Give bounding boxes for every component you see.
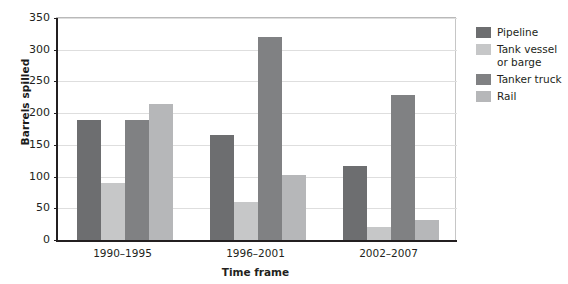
y-tick-mark: [54, 208, 58, 209]
x-tick-label: 1996–2001: [189, 247, 322, 259]
bar: [125, 120, 149, 241]
y-tick-label: 200: [4, 107, 50, 118]
y-tick-label: 300: [4, 44, 50, 55]
x-tick-label: 1990–1995: [56, 247, 189, 259]
chart-legend: PipelineTank vessel or bargeTanker truck…: [476, 26, 566, 107]
x-tick-label: 2002–2007: [322, 247, 455, 259]
y-tick-label: 250: [4, 75, 50, 86]
y-tick-label: 0: [4, 234, 50, 245]
bar: [77, 120, 101, 241]
y-tick-label: 350: [4, 12, 50, 23]
y-tick-label: 100: [4, 171, 50, 182]
y-tick-mark: [54, 113, 58, 114]
legend-item: Pipeline: [476, 26, 566, 39]
legend-label: Tank vessel or barge: [497, 43, 557, 69]
legend-swatch-icon: [476, 74, 491, 85]
plot-area: [56, 18, 457, 242]
legend-label: Pipeline: [497, 26, 538, 39]
y-tick-mark: [54, 177, 58, 178]
x-axis-title: Time frame: [56, 266, 455, 278]
legend-swatch-icon: [476, 27, 491, 38]
legend-item: Tank vessel or barge: [476, 43, 566, 69]
y-tick-mark: [54, 240, 58, 241]
bar: [101, 183, 125, 240]
legend-item: Tanker truck: [476, 73, 566, 86]
bar: [415, 220, 439, 240]
legend-swatch-icon: [476, 91, 491, 102]
y-tick-label: 150: [4, 139, 50, 150]
bar-chart: Barrels spilled 050100150200250300350 19…: [0, 0, 568, 284]
legend-label: Tanker truck: [497, 73, 562, 86]
bar: [210, 135, 234, 240]
y-tick-mark: [54, 81, 58, 82]
gridline: [58, 18, 457, 19]
bar: [343, 166, 367, 240]
bar: [258, 37, 282, 240]
bar: [367, 227, 391, 240]
legend-item: Rail: [476, 90, 566, 103]
bar: [149, 104, 173, 240]
bar: [234, 202, 258, 240]
bar: [391, 95, 415, 240]
legend-swatch-icon: [476, 44, 491, 55]
y-tick-label: 50: [4, 202, 50, 213]
y-tick-mark: [54, 50, 58, 51]
bar: [282, 175, 306, 240]
y-tick-mark: [54, 145, 58, 146]
y-tick-mark: [54, 18, 58, 19]
legend-label: Rail: [497, 90, 516, 103]
